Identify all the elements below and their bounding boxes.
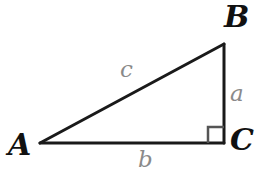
side-label-a: a: [230, 82, 244, 105]
vertex-label-c: C: [230, 125, 254, 155]
right-triangle-figure: A B C a b c: [0, 0, 264, 178]
side-label-b: b: [138, 148, 153, 171]
vertex-label-a: A: [8, 130, 31, 160]
side-label-c: c: [120, 58, 133, 81]
right-angle-marker-icon: [208, 127, 224, 143]
vertex-label-b: B: [224, 2, 249, 32]
